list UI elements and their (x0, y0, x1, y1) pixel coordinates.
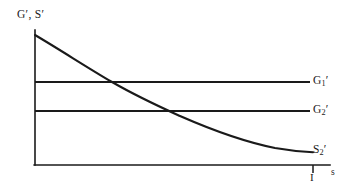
series-label-g2: G2′ (313, 104, 328, 118)
x-axis-title: s (331, 168, 335, 178)
series-label-g1-prime: ′ (326, 74, 329, 86)
series-label-g2-subscript: 2 (321, 108, 325, 117)
series-label-g2-prime: ′ (326, 103, 329, 115)
x-axis-tick-label-I: I (310, 172, 314, 183)
series-label-s2-prime: ′ (324, 143, 327, 155)
x-axis-tick-label-text: I (310, 171, 314, 183)
figure-canvas: G′, S′ G1′ G2′ S2′ I s (0, 0, 357, 191)
y-axis-title-text: G′, S′ (17, 8, 44, 20)
series-label-g1: G1′ (313, 75, 328, 89)
series-label-s2: S2′ (313, 144, 326, 158)
x-axis-title-text: s (331, 167, 335, 177)
curve-s2 (35, 35, 313, 152)
y-axis-title: G′, S′ (17, 9, 44, 21)
series-label-g1-subscript: 1 (321, 79, 325, 88)
series-label-s2-base: S (313, 143, 319, 155)
plot-area (0, 0, 357, 191)
